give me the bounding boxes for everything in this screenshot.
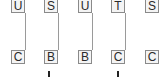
tick-mark-2 — [48, 71, 50, 77]
node-top-5: S — [145, 0, 159, 13]
node-bottom-4: C — [111, 50, 125, 64]
node-top-4: T — [111, 0, 125, 13]
connector-4 — [125, 13, 126, 50]
connector-3 — [92, 13, 93, 50]
node-top-2: S — [44, 0, 58, 13]
connector-1 — [25, 13, 26, 50]
connector-2 — [58, 13, 59, 50]
node-bottom-3: B — [78, 50, 92, 64]
tick-mark-4 — [117, 71, 119, 77]
node-bottom-5: C — [145, 50, 159, 64]
node-bottom-2: B — [44, 50, 58, 64]
node-top-3: U — [78, 0, 92, 13]
node-bottom-1: C — [11, 50, 25, 64]
node-top-1: U — [11, 0, 25, 13]
